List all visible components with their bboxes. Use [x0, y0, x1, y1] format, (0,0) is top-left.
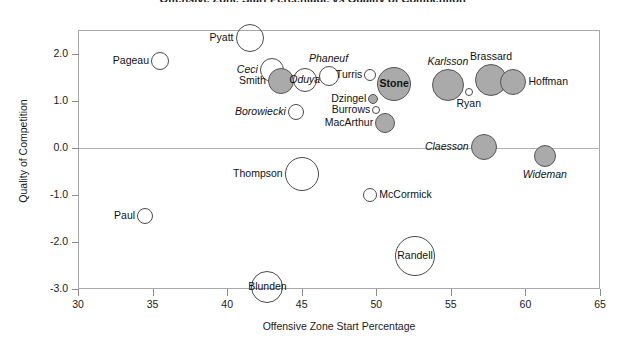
data-point-label: Paul	[114, 210, 135, 221]
y-axis-tick	[72, 242, 79, 243]
chart-title: Offensive Zone Start Percentage vs Quali…	[0, 0, 625, 2]
x-axis-tick-label: 55	[431, 298, 471, 310]
x-axis-tick-label: 60	[505, 298, 545, 310]
data-point-label: McCormick	[379, 189, 432, 200]
data-point-label: Blunden	[248, 281, 287, 292]
x-axis-tick-label: 50	[356, 298, 396, 310]
y-axis-tick	[72, 54, 79, 55]
data-bubble[interactable]	[534, 145, 556, 167]
data-bubble[interactable]	[151, 52, 169, 70]
data-point-label: Randell	[397, 250, 433, 261]
x-axis-tick	[451, 289, 452, 296]
data-point-label: Stone	[380, 78, 409, 89]
data-point-label: Wideman	[523, 169, 567, 180]
data-bubble[interactable]	[288, 104, 304, 120]
x-axis-tick	[302, 289, 303, 296]
zero-reference-line	[78, 148, 600, 149]
data-point-label: Hoffman	[528, 76, 568, 87]
data-bubble[interactable]	[432, 69, 464, 101]
y-axis-tick-label: 1.0	[22, 94, 68, 106]
y-axis-tick-label: 0.0	[22, 141, 68, 153]
data-point-label: Ryan	[456, 98, 481, 109]
bubble-chart: Offensive Zone Start Percentage vs Quali…	[0, 0, 625, 350]
data-point-label: Borowiecki	[235, 106, 286, 117]
x-axis-tick	[227, 289, 228, 296]
x-axis-tick-label: 65	[580, 298, 620, 310]
data-point-label: Thompson	[233, 168, 283, 179]
data-point-label: Oduya	[289, 74, 320, 85]
x-axis-tick-label: 40	[207, 298, 247, 310]
data-bubble[interactable]	[471, 134, 497, 160]
x-axis-tick	[153, 289, 154, 296]
x-axis-tick	[600, 289, 601, 296]
x-axis-tick	[525, 289, 526, 296]
data-point-label: Claesson	[425, 141, 469, 152]
data-point-label: Pyatt	[210, 32, 234, 43]
x-axis-tick	[78, 289, 79, 296]
y-axis-tick	[72, 148, 79, 149]
data-bubble[interactable]	[137, 208, 153, 224]
y-axis-tick-label: -1.0	[22, 188, 68, 200]
y-axis-tick-label: 2.0	[22, 47, 68, 59]
x-axis-tick-label: 35	[133, 298, 173, 310]
data-point-label: Karlsson	[427, 56, 468, 67]
y-axis-tick-label: -2.0	[22, 235, 68, 247]
data-point-label: MacArthur	[325, 117, 373, 128]
data-bubble[interactable]	[465, 88, 473, 96]
y-axis-tick	[72, 101, 79, 102]
data-point-label: Phaneuf	[309, 53, 348, 64]
data-bubble[interactable]	[236, 24, 264, 52]
data-bubble[interactable]	[285, 157, 319, 191]
data-point-label: Pageau	[113, 55, 149, 66]
x-axis-tick-label: 30	[58, 298, 98, 310]
x-axis-tick	[376, 289, 377, 296]
data-point-label: Turris	[336, 69, 362, 80]
data-point-label: Burrows	[332, 104, 371, 115]
data-point-label: Brassard	[470, 51, 512, 62]
data-point-label: Smith	[239, 75, 266, 86]
y-axis-tick	[72, 195, 79, 196]
x-axis-tick-label: 45	[282, 298, 322, 310]
x-axis-title: Offensive Zone Start Percentage	[78, 320, 600, 332]
y-axis-tick-label: -3.0	[22, 282, 68, 294]
